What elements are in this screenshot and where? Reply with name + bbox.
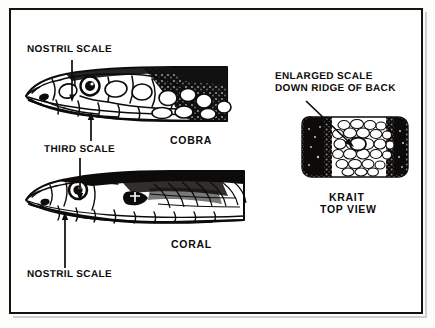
caption-coral: CORAL: [171, 238, 212, 251]
caption-krait-line2: TOP VIEW: [320, 203, 377, 216]
label-third-scale: THIRD SCALE: [44, 144, 115, 157]
label-enlarged-scale-line2: DOWN RIDGE OF BACK: [275, 83, 396, 96]
figure-page: NOSTRIL SCALE THIRD SCALE NOSTRIL SCALE …: [0, 0, 435, 328]
caption-krait-line1: KRAIT: [329, 191, 365, 204]
label-nostril-scale-top: NOSTRIL SCALE: [27, 44, 112, 57]
caption-cobra: COBRA: [170, 134, 212, 147]
label-enlarged-scale-line1: ENLARGED SCALE: [275, 71, 373, 84]
label-nostril-scale-bottom: NOSTRIL SCALE: [27, 269, 112, 282]
